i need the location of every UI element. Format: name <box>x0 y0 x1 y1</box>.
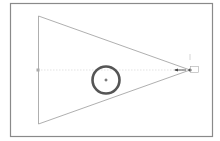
diagram-svg <box>0 0 220 141</box>
apex-handle[interactable] <box>188 68 191 71</box>
diagram-canvas <box>0 0 220 141</box>
left-handle[interactable] <box>37 69 40 72</box>
